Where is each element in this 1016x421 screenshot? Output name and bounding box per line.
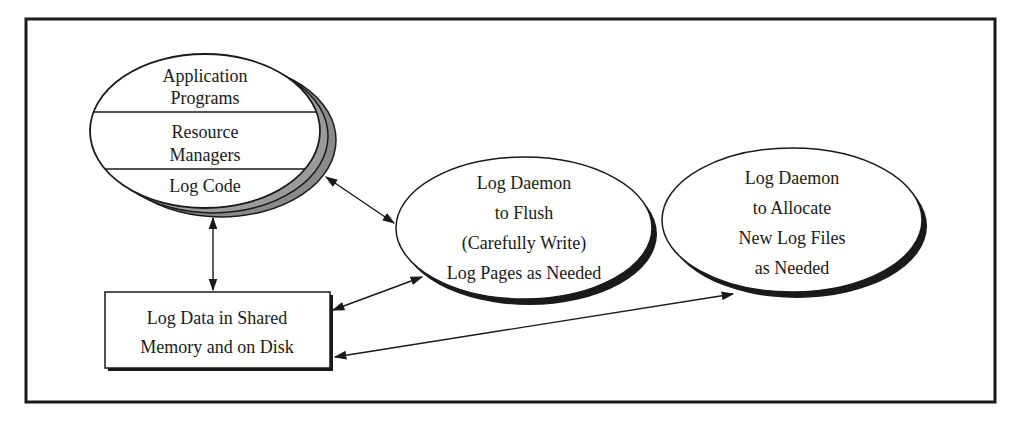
- flush-line-4: Log Pages as Needed: [447, 263, 601, 283]
- log-data-line-1: Log Data in Shared: [147, 308, 287, 328]
- flush-line-2: to Flush: [495, 203, 554, 223]
- allocate-line-4: as Needed: [755, 258, 829, 278]
- diagram-svg: Application Programs Resource Managers L…: [0, 0, 1016, 421]
- allocate-line-2: to Allocate: [753, 198, 831, 218]
- allocate-daemon-node: Log Daemon to Allocate New Log Files as …: [662, 148, 927, 298]
- allocate-line-1: Log Daemon: [745, 168, 839, 188]
- flush-daemon-node: Log Daemon to Flush (Carefully Write) Lo…: [396, 157, 657, 305]
- layer-label-programs: Programs: [171, 88, 240, 108]
- arrow-logdata-to-flush: [333, 277, 422, 310]
- diagram-canvas: Application Programs Resource Managers L…: [0, 0, 1016, 421]
- layer-label-managers: Managers: [170, 145, 241, 165]
- log-data-node: Log Data in Shared Memory and on Disk: [105, 292, 333, 371]
- flush-line-1: Log Daemon: [477, 173, 571, 193]
- allocate-line-3: New Log Files: [739, 228, 846, 248]
- layer-label-application: Application: [163, 66, 248, 86]
- app-stack-node: Application Programs Resource Managers L…: [80, 54, 336, 217]
- layer-label-resource: Resource: [172, 122, 239, 142]
- layer-label-log-code: Log Code: [169, 176, 241, 196]
- log-data-line-2: Memory and on Disk: [140, 337, 293, 357]
- flush-line-3: (Carefully Write): [462, 233, 586, 254]
- arrow-stack-to-flush: [326, 177, 394, 223]
